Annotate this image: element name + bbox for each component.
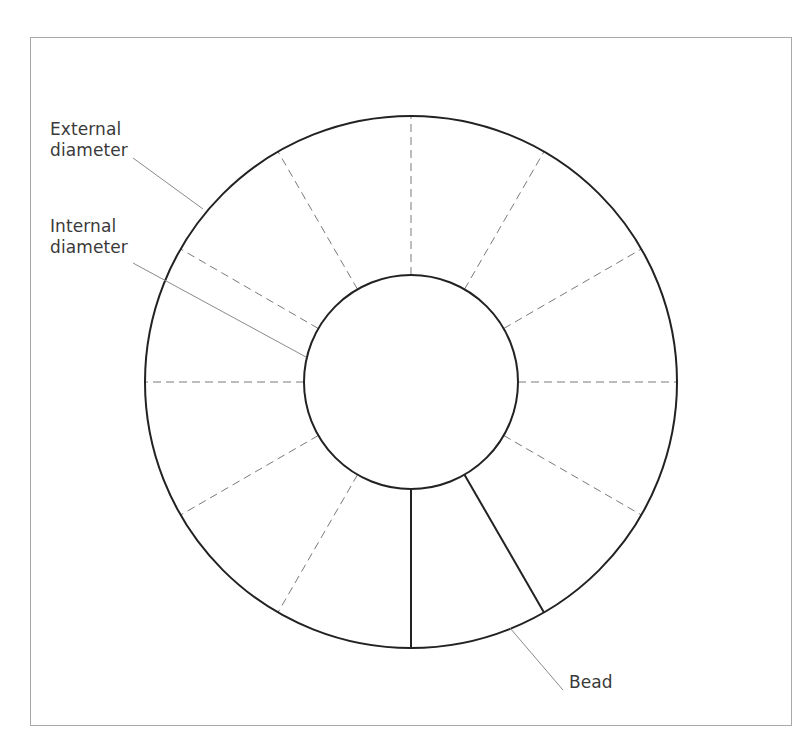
label-external-diameter: External diameter — [50, 119, 128, 161]
ring-diagram — [0, 0, 812, 748]
label-internal-diameter: Internal diameter — [50, 216, 128, 258]
label-internal-line1: Internal — [50, 216, 128, 237]
label-bead-text: Bead — [569, 672, 613, 693]
label-external-line2: diameter — [50, 140, 128, 161]
label-bead: Bead — [569, 672, 613, 693]
label-external-line1: External — [50, 119, 128, 140]
label-internal-line2: diameter — [50, 237, 128, 258]
